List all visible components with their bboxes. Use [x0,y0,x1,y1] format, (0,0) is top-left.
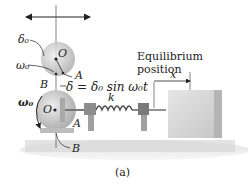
label-delta0: δ₀ [18,34,29,45]
label-B-bottom: B [72,143,80,154]
label-O-top: O [58,48,67,59]
label-A-bottom: A [73,118,81,129]
label-spring-k: k [108,92,115,103]
ground [20,140,248,160]
label-O-bottom: O [43,104,52,115]
label-displacement-equation: δ = δ₀ sin ω₀t [66,81,148,93]
disk-top [28,40,75,77]
label-omega0-top: ω₀ [16,60,29,71]
label-x: x [170,69,176,80]
label-equilibrium: Equilibrium [137,51,203,62]
mass-block [168,90,222,138]
figure-caption: (a) [115,167,130,178]
label-omega0-bottom: ω₀ [18,97,33,108]
label-B-top: B [40,79,48,90]
